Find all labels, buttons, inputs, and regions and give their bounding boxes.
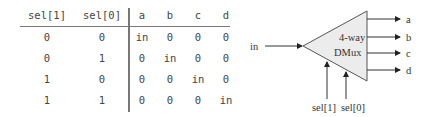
output-label-a: a bbox=[406, 14, 411, 25]
output-label-d: d bbox=[406, 65, 412, 76]
title-line1: 4-way bbox=[339, 32, 366, 43]
dmux-diagram: in 4-way DMux a b c d sel[1] sel[0] bbox=[0, 0, 433, 117]
sel1-label: sel[1] bbox=[312, 102, 336, 113]
sel0-label: sel[0] bbox=[341, 102, 365, 113]
output-label-b: b bbox=[406, 32, 411, 43]
dmux-triangle bbox=[303, 11, 367, 81]
input-label: in bbox=[250, 41, 259, 52]
output-label-c: c bbox=[406, 48, 411, 59]
title-line2: DMux bbox=[334, 47, 362, 58]
